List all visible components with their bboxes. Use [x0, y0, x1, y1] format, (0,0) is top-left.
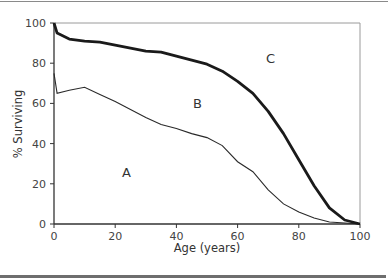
upper-survival-curve	[54, 23, 360, 224]
plot-area	[54, 23, 360, 224]
y-axis-label: % Surviving	[11, 90, 25, 159]
survival-chart: 020406080100 020406080100 A B C Age (yea…	[0, 0, 392, 279]
y-tick-label: 100	[25, 17, 46, 30]
region-label-b: B	[193, 96, 202, 111]
region-label-c: C	[266, 51, 275, 66]
y-axis-ticks: 020406080100	[25, 17, 54, 231]
y-tick-label: 60	[32, 97, 46, 110]
y-tick-label: 0	[39, 218, 46, 231]
y-tick-label: 80	[32, 57, 46, 70]
y-tick-label: 20	[32, 178, 46, 191]
x-tick-label: 0	[51, 230, 58, 243]
lower-survival-curve	[54, 73, 360, 224]
x-tick-label: 100	[350, 230, 371, 243]
region-label-a: A	[122, 165, 131, 180]
x-tick-label: 80	[292, 230, 306, 243]
y-tick-label: 40	[32, 138, 46, 151]
x-axis-label: Age (years)	[174, 241, 241, 255]
x-tick-label: 20	[108, 230, 122, 243]
